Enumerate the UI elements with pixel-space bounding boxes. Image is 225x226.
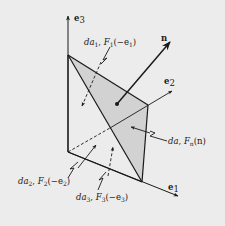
normal-label: n	[161, 33, 167, 43]
normal-vector	[117, 42, 170, 104]
e3-label: e3	[74, 13, 85, 25]
da-label: da, Fn(n)	[168, 136, 206, 147]
da1-label: da1, F1(−e1)	[84, 37, 136, 48]
e2-label: e2	[164, 76, 175, 88]
tetrahedron-diagram: e3 e2 e1 n da1, F1(−e1) da, Fn(n) da2, F…	[0, 0, 225, 226]
leader-squiggle-da3	[98, 172, 106, 190]
da2-label: da2, F2(−e2)	[18, 176, 70, 187]
leader-squiggle-da	[150, 131, 167, 141]
force-arrow-da2	[78, 145, 96, 168]
e2-axis-hidden	[68, 128, 110, 152]
leader-squiggle-da1	[101, 47, 110, 64]
force-arrow-da3	[108, 147, 113, 176]
inclined-face	[68, 55, 148, 182]
da3-label: da3, F3(−e3)	[76, 192, 128, 203]
